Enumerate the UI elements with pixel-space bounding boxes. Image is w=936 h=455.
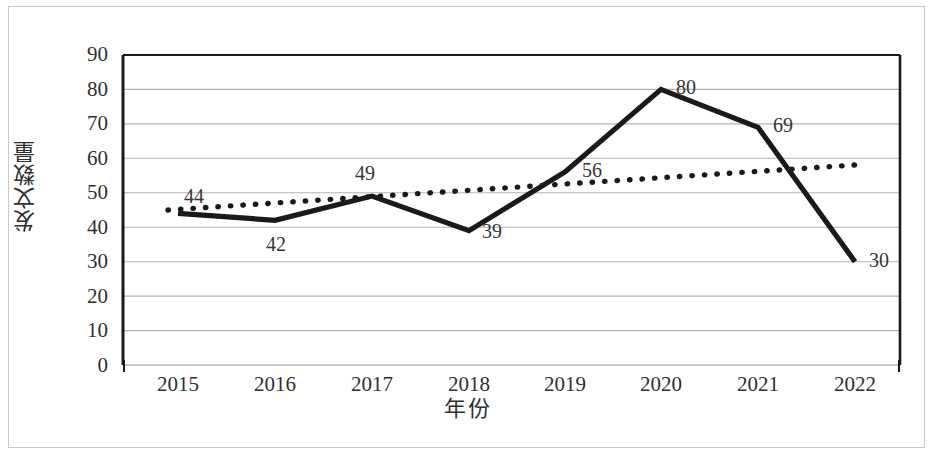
data-label-2021: 69	[773, 115, 793, 135]
data-label-2016: 42	[266, 234, 286, 254]
data-label-2020: 80	[676, 77, 696, 97]
data-label-2018: 39	[482, 221, 502, 241]
chart-figure: 发文数量 年份 90 80 70 60 50 40 30 20 10 0 201…	[0, 0, 936, 455]
axis-end-ticks	[124, 360, 899, 372]
data-label-2022: 30	[869, 250, 889, 270]
plot-border	[123, 55, 900, 365]
data-label-2015: 44	[184, 186, 204, 206]
chart-plot-area	[0, 0, 936, 455]
data-label-2019: 56	[582, 160, 602, 180]
data-label-2017: 49	[355, 163, 375, 183]
